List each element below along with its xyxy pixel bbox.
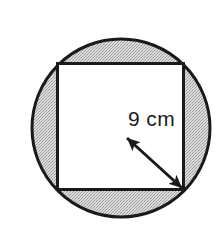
- geometry-figure: 9 cm: [0, 0, 224, 239]
- radius-dimension-label: 9 cm: [128, 107, 175, 130]
- figure-canvas: 9 cm: [0, 0, 224, 239]
